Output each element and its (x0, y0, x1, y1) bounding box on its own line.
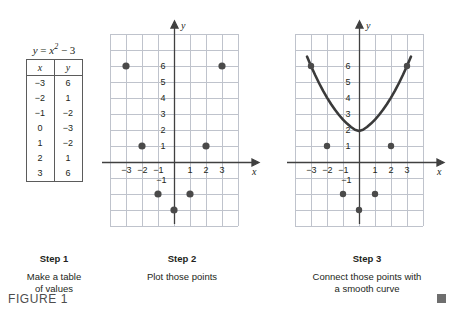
equation-label: y = x2 − 3 (0, 40, 108, 54)
y-tick-label: 2 (341, 125, 355, 135)
equation-equals: = (38, 44, 50, 56)
data-point (138, 142, 145, 149)
data-point (122, 62, 129, 69)
y-tick-label: 4 (341, 93, 355, 103)
table-row: −3 6 (26, 76, 82, 92)
data-point (154, 190, 161, 197)
x-axis-arrow (252, 159, 259, 166)
cell-x: 3 (26, 166, 54, 182)
x-tick-label: 2 (200, 165, 212, 175)
y-tick-label: 6 (341, 61, 355, 71)
step2-plot-panel: 6 5 4 3 2 1 −1 −3 −2 −1 1 2 3 y x (102, 18, 262, 230)
cell-x: 2 (26, 151, 54, 166)
x-axis-label: x (437, 166, 441, 177)
y-tick-label: 2 (156, 125, 170, 135)
x-tick-label: −2 (319, 165, 336, 175)
y-tick-label: −1 (338, 175, 355, 185)
data-point (308, 63, 314, 69)
y-tick-label: 1 (341, 141, 355, 151)
step2-caption-title: Step 2 (112, 253, 252, 265)
cell-x: 0 (26, 121, 54, 136)
table-body: −3 6 −2 1 −1 −2 0 −3 1 −2 2 1 (26, 76, 82, 182)
data-point (186, 190, 193, 197)
y-tick-label: 4 (156, 93, 170, 103)
data-point (388, 143, 394, 149)
y-tick-label: 1 (156, 141, 170, 151)
y-tick-label: 5 (341, 77, 355, 87)
cell-y: 1 (54, 151, 82, 166)
x-tick-label: −1 (150, 165, 167, 175)
x-tick-label: 1 (184, 165, 196, 175)
x-tick-label: −3 (303, 165, 320, 175)
y-tick-label: 5 (156, 77, 170, 87)
axis-lines (287, 21, 444, 224)
y-axis-arrow (356, 21, 363, 28)
y-axis-label: y (181, 20, 185, 31)
cell-y: −2 (54, 106, 82, 121)
values-table: x y −3 6 −2 1 −1 −2 0 −3 1 −2 (26, 59, 83, 182)
equation-remainder: − 3 (58, 44, 75, 56)
cell-x: −3 (26, 76, 54, 92)
x-tick-label: −3 (118, 165, 135, 175)
step2-coordinate-plane (102, 18, 262, 230)
x-tick-label: 2 (385, 165, 397, 175)
cell-y: 6 (54, 76, 82, 92)
cell-x: −2 (26, 91, 54, 106)
data-point (324, 143, 330, 149)
y-tick-label: 3 (156, 109, 170, 119)
data-point (218, 62, 225, 69)
step1-caption-line1: Make a table (7, 271, 101, 283)
x-axis-arrow (437, 159, 444, 166)
cell-y: 6 (54, 166, 82, 182)
cell-y: 1 (54, 91, 82, 106)
axis-lines (102, 21, 259, 224)
table-header-row: x y (26, 60, 82, 76)
x-tick-label: −2 (134, 165, 151, 175)
x-axis-label: x (252, 166, 256, 177)
table-row: −2 1 (26, 91, 82, 106)
y-tick-label: −1 (153, 175, 170, 185)
data-point (372, 191, 378, 197)
end-of-section-marker (437, 294, 446, 303)
x-tick-label: 1 (369, 165, 381, 175)
y-tick-label: 6 (156, 61, 170, 71)
table-header-x: x (26, 60, 54, 76)
data-point (170, 206, 177, 213)
table-header-y: y (54, 60, 82, 76)
step3-caption-line1: Connect those points with (282, 271, 452, 283)
cell-x: −1 (26, 106, 54, 121)
cell-y: −3 (54, 121, 82, 136)
table-row: 2 1 (26, 151, 82, 166)
table-row: −1 −2 (26, 106, 82, 121)
x-tick-label: 3 (216, 165, 228, 175)
x-tick-label: −1 (335, 165, 352, 175)
data-point (202, 142, 209, 149)
table-row: 3 6 (26, 166, 82, 182)
data-point (340, 191, 346, 197)
step3-plot-panel: 6 5 4 3 2 1 −1 −3 −2 −1 1 2 3 y x (287, 18, 447, 230)
figure-label: FIGURE 1 (8, 292, 68, 306)
step1-caption-title: Step 1 (7, 253, 101, 265)
cell-x: 1 (26, 136, 54, 151)
cell-y: −2 (54, 136, 82, 151)
x-tick-label: 3 (401, 165, 413, 175)
step3-caption-title: Step 3 (282, 253, 452, 265)
table-row: 0 −3 (26, 121, 82, 136)
step2-caption-line1: Plot those points (112, 271, 252, 283)
data-point (356, 207, 362, 213)
data-point (404, 63, 410, 69)
y-axis-arrow (171, 21, 178, 28)
table-row: 1 −2 (26, 136, 82, 151)
y-axis-label: y (366, 20, 370, 31)
step3-caption-line2: a smooth curve (282, 283, 452, 295)
step1-table-panel: y = x2 − 3 x y −3 6 −2 1 −1 −2 0 −3 (0, 40, 108, 182)
y-tick-label: 3 (341, 109, 355, 119)
step3-coordinate-plane (287, 18, 447, 230)
